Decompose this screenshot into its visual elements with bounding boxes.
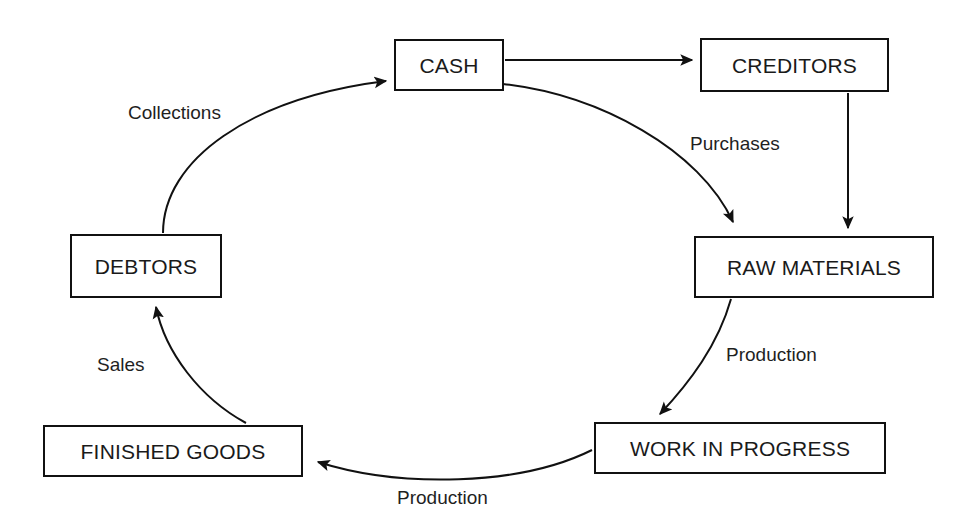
node-finished-goods-label: FINISHED GOODS — [81, 441, 266, 462]
edge-production-1-path — [660, 299, 731, 414]
diagram-canvas: CASH CREDITORS RAW MATERIALS WORK IN PRO… — [0, 0, 970, 532]
edge-label-purchases: Purchases — [690, 134, 780, 153]
edge-label-production-wip-to-finished: Production — [397, 488, 488, 507]
node-cash-label: CASH — [419, 55, 478, 76]
node-raw-materials-label: RAW MATERIALS — [727, 257, 901, 278]
edge-label-collections: Collections — [128, 103, 221, 122]
edge-production-2-path — [318, 450, 592, 480]
edge-label-production-raw-to-wip: Production — [726, 345, 817, 364]
node-raw-materials[interactable]: RAW MATERIALS — [694, 236, 934, 298]
node-finished-goods[interactable]: FINISHED GOODS — [43, 425, 303, 477]
edge-sales-path — [156, 307, 246, 423]
node-debtors[interactable]: DEBTORS — [70, 234, 222, 298]
node-creditors[interactable]: CREDITORS — [700, 38, 889, 92]
node-work-in-progress[interactable]: WORK IN PROGRESS — [594, 422, 886, 474]
node-work-in-progress-label: WORK IN PROGRESS — [630, 438, 850, 459]
node-cash[interactable]: CASH — [394, 39, 504, 91]
node-creditors-label: CREDITORS — [732, 55, 857, 76]
edge-label-sales: Sales — [97, 355, 145, 374]
node-debtors-label: DEBTORS — [95, 256, 198, 277]
